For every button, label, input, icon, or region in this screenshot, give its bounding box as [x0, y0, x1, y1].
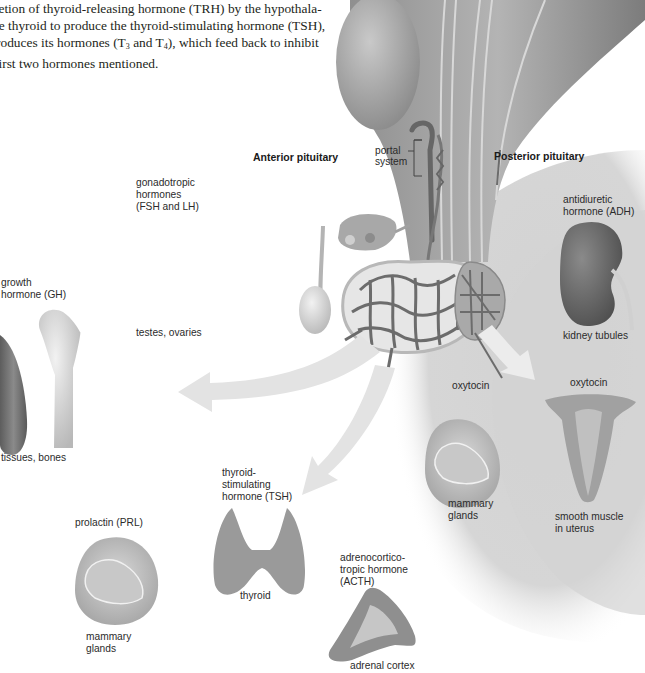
- ovary-illustration: [338, 214, 396, 250]
- oxytocin-label-mammary: oxytocin: [452, 380, 489, 392]
- thyroid-label: thyroid: [240, 590, 271, 602]
- femur-illustration: [39, 310, 80, 448]
- diagram-artwork: [0, 0, 645, 673]
- testes-ovaries-label: testes, ovaries: [136, 327, 202, 339]
- optic-chiasm: [336, 0, 420, 130]
- gonadotropic-hormone-label: gonadotropic hormones (FSH and LH): [136, 177, 199, 213]
- oxytocin-label-uterus: oxytocin: [570, 377, 607, 389]
- intro-line: he thyroid to produce the thyroid-stimul…: [0, 17, 330, 34]
- prolactin-label: prolactin (PRL): [75, 517, 143, 529]
- intro-line: retion of thyroid-releasing hormone (TRH…: [0, 0, 330, 17]
- mammary-glands-label-oxytocin: mammary glands: [448, 498, 493, 522]
- intro-line: first two hormones mentioned.: [0, 55, 330, 72]
- testis-illustration: [299, 286, 331, 334]
- adrenal-cortex-label: adrenal cortex: [350, 660, 415, 672]
- anterior-pituitary-label: Anterior pituitary: [253, 151, 338, 163]
- portal-system-label: portal system: [375, 145, 407, 167]
- tissues-bones-label: tissues, bones: [1, 452, 66, 464]
- mammary-glands-label-prolactin: mammary glands: [86, 631, 131, 655]
- acth-label: adrenocortico- tropic hormone (ACTH): [340, 552, 408, 588]
- kidney-illustration: [560, 222, 622, 326]
- arrow-to-gonads: [178, 335, 380, 412]
- thyroid-illustration: [214, 508, 306, 595]
- muscle-illustration: [0, 335, 27, 455]
- portal-bracket: [406, 138, 426, 178]
- posterior-pituitary-label: Posterior pituitary: [494, 150, 584, 162]
- intro-line: roduces its hormones (T3 and T4), which …: [0, 34, 330, 55]
- tsh-label: thyroid- stimulating hormone (TSH): [222, 467, 292, 503]
- kidney-tubules-label: kidney tubules: [563, 330, 628, 342]
- adh-label: antidiuretic hormone (ADH): [563, 194, 634, 218]
- pituitary-hormone-diagram: retion of thyroid-releasing hormone (TRH…: [0, 0, 645, 673]
- growth-hormone-label: growth hormone (GH): [1, 277, 66, 301]
- smooth-muscle-uterus-label: smooth muscle in uterus: [555, 511, 624, 535]
- intro-paragraph: retion of thyroid-releasing hormone (TRH…: [0, 0, 330, 72]
